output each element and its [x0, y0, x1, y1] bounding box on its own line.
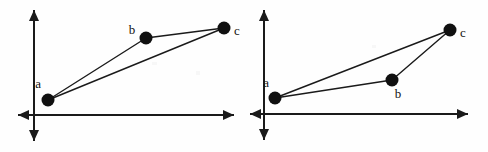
left-panel-label-b: b [129, 22, 136, 37]
left-panel-label-c: c [234, 23, 240, 38]
left-panel-axes [18, 10, 234, 141]
left-panel-x-axis-arrow-start [18, 110, 29, 120]
left-panel-drawing: abc [0, 0, 244, 152]
right-panel: abc [244, 0, 488, 152]
left-panel-labels: abc [35, 22, 240, 91]
right-panel-edge-ab [275, 80, 392, 98]
left-panel-point-b [140, 32, 153, 45]
left-panel-point-a [42, 94, 55, 107]
left-panel-y-axis-arrow-end [29, 130, 39, 141]
right-panel-label-c: c [460, 25, 466, 40]
right-panel-edge-bc [392, 30, 450, 80]
right-panel-y-axis-arrow-start [259, 10, 269, 21]
right-panel-axes [250, 10, 468, 140]
right-panel-edges [275, 30, 450, 98]
left-panel-x-axis-arrow-end [223, 110, 234, 120]
right-panel-drawing: abc [244, 0, 488, 152]
left-panel-edges [48, 28, 224, 100]
right-panel-y-axis-arrow-end [259, 129, 269, 140]
right-panel-point-a [269, 92, 282, 105]
left-panel: abc [0, 0, 244, 152]
right-panel-point-b [386, 74, 399, 87]
left-panel-edge-ac [48, 28, 224, 100]
right-panel-label-a: a [263, 75, 269, 90]
right-panel-x-axis-arrow-start [250, 109, 261, 119]
left-panel-edge-ab [48, 38, 146, 100]
right-panel-label-b: b [395, 86, 402, 101]
figure-canvas: abc abc [0, 0, 488, 152]
right-panel-x-axis-arrow-end [457, 109, 468, 119]
left-panel-y-axis-arrow-start [29, 10, 39, 21]
right-panel-point-c [444, 24, 457, 37]
left-panel-label-a: a [35, 76, 41, 91]
right-panel-edge-ac [275, 30, 450, 98]
left-panel-point-c [218, 22, 231, 35]
